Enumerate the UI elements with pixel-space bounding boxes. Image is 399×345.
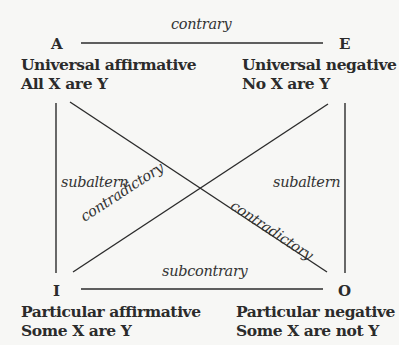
corner-e-letter: E: [339, 37, 350, 52]
corner-a-form: All X are Y: [21, 76, 108, 92]
subaltern-right-label: subaltern: [273, 175, 340, 190]
corner-a-name: Universal affirmative: [21, 57, 196, 73]
corner-e-form: No X are Y: [242, 76, 330, 92]
corner-i-form: Some X are Y: [21, 323, 131, 339]
corner-o-form: Some X are not Y: [236, 323, 379, 339]
corner-o-letter: O: [338, 284, 351, 299]
corner-i-letter: I: [53, 284, 60, 299]
corner-i-name: Particular affirmative: [21, 304, 201, 320]
corner-a-letter: A: [51, 37, 63, 52]
corner-e-name: Universal negative: [242, 57, 397, 73]
subcontrary-label: subcontrary: [162, 264, 247, 279]
contrary-label: contrary: [171, 17, 231, 32]
corner-o-name: Particular negative: [236, 304, 395, 320]
